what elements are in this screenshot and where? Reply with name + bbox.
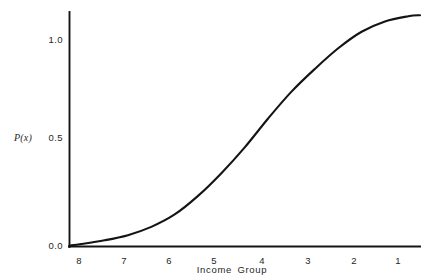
y-tick-label-0: 0.0 [33,241,63,251]
x-axis-label: Income Group [197,265,268,275]
plot-area [0,0,422,280]
data-curve [70,15,421,245]
y-tick-label-2: 1.0 [33,35,63,45]
y-tick-label-1: 0.5 [33,133,63,143]
x-tick-label-6: 2 [351,256,357,266]
x-tick-label-0: 8 [76,256,82,266]
x-tick-label-5: 3 [305,256,311,266]
chart-figure: 0.0 0.5 1.0 8 7 6 5 4 3 2 1 P(x) Income … [0,0,422,280]
y-axis-label: P(x) [14,133,32,143]
x-tick-label-2: 6 [166,256,172,266]
x-tick-label-7: 1 [395,256,401,266]
x-tick-label-1: 7 [121,256,127,266]
